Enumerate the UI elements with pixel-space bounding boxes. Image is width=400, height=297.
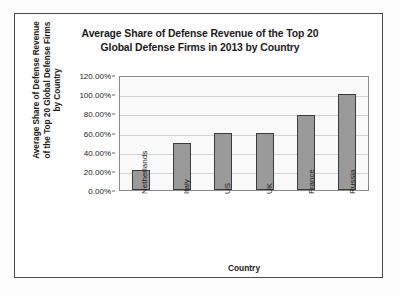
y-axis-tick-mark [112, 133, 115, 134]
x-label-slot: Italy [161, 192, 203, 256]
chart-frame: Average Share of Defense Revenue of the … [14, 13, 383, 278]
chart-title-line-2: Global Defense Firms in 2013 by Country [35, 41, 365, 55]
y-axis-tick-label: 20.00% [84, 167, 111, 176]
y-axis-title-line-2: of the Top 20 Global Defense Firms [43, 5, 54, 175]
x-axis-title: Country [119, 263, 369, 273]
y-axis-tick-label: 0.00% [88, 187, 111, 196]
y-axis-tick-mark [112, 171, 115, 172]
bar-slot [203, 77, 244, 190]
y-axis-tick-label: 120.00% [79, 72, 111, 81]
bar-us [214, 133, 232, 190]
y-axis-title-line-1: Average Share of Defense Revenue [32, 5, 43, 175]
x-label-slot: UK [244, 192, 286, 256]
y-axis-title: Average Share of Defense Revenue of the … [32, 5, 72, 175]
y-axis-tick-mark [112, 76, 115, 77]
y-axis-tick-label: 40.00% [84, 148, 111, 157]
chart-title-line-1: Average Share of Defense Revenue of the … [35, 27, 365, 41]
y-axis-tick-labels: 120.00%100.00%80.00%60.00%40.00%20.00%0.… [67, 76, 115, 191]
bar-uk [256, 133, 274, 190]
y-axis-tick-label: 80.00% [84, 110, 111, 119]
y-axis-title-line-3: by Country [53, 5, 64, 175]
y-axis-tick-mark [112, 95, 115, 96]
x-axis-tick-label-italy: Italy [182, 179, 191, 194]
x-axis-tick-label-uk: UK [265, 183, 274, 194]
x-label-slot: France [286, 192, 328, 256]
bar-series [120, 77, 368, 190]
y-axis-tick-mark [112, 114, 115, 115]
x-label-slot: Russia [327, 192, 369, 256]
x-label-slot: US [202, 192, 244, 256]
plot-area [119, 76, 369, 191]
y-axis-tick-label: 100.00% [79, 91, 111, 100]
x-axis-tick-labels: NetherlandsItalyUSUKFranceRussia [119, 192, 369, 256]
y-axis-tick-mark [112, 191, 115, 192]
chart-title: Average Share of Defense Revenue of the … [35, 27, 365, 55]
x-axis-tick-label-netherlands: Netherlands [140, 151, 149, 194]
x-axis-tick-label-france: France [307, 169, 316, 194]
x-label-slot: Netherlands [119, 192, 161, 256]
y-axis-tick-label: 60.00% [84, 129, 111, 138]
y-axis-tick-mark [112, 152, 115, 153]
bar-slot [244, 77, 285, 190]
x-axis-tick-label-russia: Russia [348, 170, 357, 194]
x-axis-tick-label-us: US [223, 183, 232, 194]
bar-slot [161, 77, 202, 190]
bar-slot [285, 77, 326, 190]
